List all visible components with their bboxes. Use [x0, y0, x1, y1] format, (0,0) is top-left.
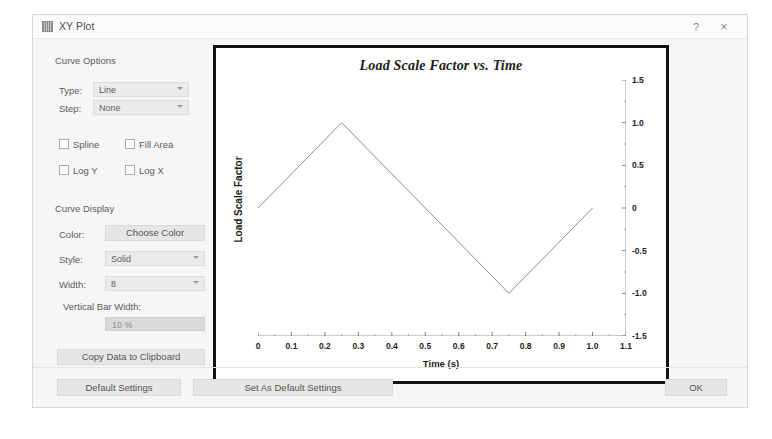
- x-tick-label: 1.1: [620, 341, 632, 351]
- close-icon[interactable]: ×: [713, 18, 735, 36]
- ok-button[interactable]: OK: [665, 379, 727, 396]
- axes: [258, 80, 626, 336]
- y-tick-label: -0.5: [632, 246, 647, 256]
- y-tick-marks: [622, 80, 626, 336]
- spline-checkbox[interactable]: Spline: [59, 139, 99, 150]
- options-panel: Curve Options Type: Line Step: None Spli…: [33, 39, 219, 369]
- default-settings-button[interactable]: Default Settings: [57, 379, 181, 396]
- x-tick-label: 0: [256, 341, 261, 351]
- vertical-bar-width-label: Vertical Bar Width:: [63, 301, 141, 312]
- plot-svg: [258, 80, 626, 336]
- x-tick-label: 0.1: [286, 341, 298, 351]
- log-x-checkbox[interactable]: Log X: [125, 165, 164, 176]
- copy-data-to-clipboard-button[interactable]: Copy Data to Clipboard: [57, 349, 205, 365]
- y-tick-label: 1.5: [632, 75, 644, 85]
- x-tick-label: 0.7: [486, 341, 498, 351]
- chevron-down-icon: [193, 256, 199, 259]
- choose-color-button[interactable]: Choose Color: [105, 225, 205, 241]
- style-label: Style:: [59, 254, 83, 265]
- y-tick-label: 1.0: [632, 118, 644, 128]
- step-select[interactable]: None: [93, 100, 189, 115]
- window-title: XY Plot: [59, 20, 95, 32]
- x-tick-label: 0.4: [386, 341, 398, 351]
- plot-area: 00.10.20.30.40.50.60.70.80.91.01.1 1.51.…: [258, 80, 626, 336]
- width-select-value: 8: [111, 279, 116, 289]
- curve-options-heading: Curve Options: [55, 55, 116, 66]
- vertical-bar-width-value: 10 %: [112, 320, 133, 330]
- title-bar: XY Plot ? ×: [33, 15, 747, 39]
- x-tick-label: 0.6: [453, 341, 465, 351]
- step-select-value: None: [99, 103, 121, 113]
- style-select-value: Solid: [111, 254, 131, 264]
- fill-area-checkbox[interactable]: Fill Area: [125, 139, 173, 150]
- type-select[interactable]: Line: [93, 82, 189, 97]
- width-label: Width:: [59, 279, 86, 290]
- step-label: Step:: [59, 103, 81, 114]
- data-series: [258, 123, 593, 294]
- vertical-bar-width-field[interactable]: 10 %: [105, 317, 205, 331]
- x-tick-label: 0.3: [352, 341, 364, 351]
- x-tick-label: 0.2: [319, 341, 331, 351]
- y-tick-label: -1.0: [632, 288, 647, 298]
- x-tick-label: 0.5: [419, 341, 431, 351]
- dialog-footer: Default Settings Set As Default Settings…: [33, 367, 747, 407]
- chart-title: Load Scale Factor vs. Time: [216, 58, 666, 74]
- help-icon[interactable]: ?: [685, 18, 707, 36]
- type-label: Type:: [59, 85, 82, 96]
- y-axis-label: Load Scale Factor: [233, 140, 244, 260]
- x-tick-label: 0.9: [553, 341, 565, 351]
- x-tick-marks: [258, 332, 626, 336]
- width-select[interactable]: 8: [105, 276, 205, 291]
- chevron-down-icon: [177, 105, 183, 108]
- y-tick-label: -1.5: [632, 331, 647, 341]
- chevron-down-icon: [177, 87, 183, 90]
- xy-plot-dialog: XY Plot ? × Curve Options Type: Line Ste…: [32, 14, 748, 408]
- plot-window-icon: [42, 21, 53, 32]
- y-tick-label: 0.5: [632, 160, 644, 170]
- type-select-value: Line: [99, 85, 116, 95]
- log-y-checkbox[interactable]: Log Y: [59, 165, 98, 176]
- plot-canvas: Load Scale Factor vs. Time Load Scale Fa…: [213, 45, 669, 384]
- curve-display-heading: Curve Display: [55, 203, 114, 214]
- series-line: [258, 123, 593, 294]
- chevron-down-icon: [193, 281, 199, 284]
- color-label: Color:: [59, 229, 84, 240]
- x-tick-label: 0.8: [520, 341, 532, 351]
- y-tick-label: 0: [632, 203, 637, 213]
- style-select[interactable]: Solid: [105, 251, 205, 266]
- set-as-default-settings-button[interactable]: Set As Default Settings: [193, 379, 393, 396]
- x-tick-label: 1.0: [587, 341, 599, 351]
